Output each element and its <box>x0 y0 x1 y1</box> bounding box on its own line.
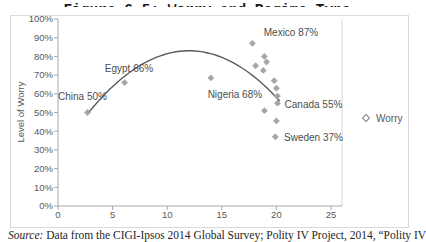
data-point-diamond <box>121 79 128 86</box>
data-point-diamond <box>207 75 214 82</box>
data-point-label: Mexico 87% <box>264 27 319 38</box>
y-tick-label: 70% <box>34 69 54 80</box>
y-tick-label: 10% <box>34 182 54 193</box>
x-tick-label: 25 <box>326 209 337 220</box>
data-point-diamond <box>263 59 270 66</box>
data-point-label: Canada 55% <box>285 99 343 110</box>
figure-title-clipped: Figure 6.5: Worry and Regime Type <box>0 0 414 7</box>
x-tick-label: 0 <box>55 209 60 220</box>
data-point-label: Egypt 66% <box>105 63 153 74</box>
figure-title-text: Figure 6.5: Worry and Regime Type <box>63 2 350 7</box>
y-tick-label: 20% <box>34 163 54 174</box>
data-point-diamond <box>273 85 280 92</box>
y-tick-label: 60% <box>34 88 54 99</box>
y-axis-title: Level of Worry <box>15 81 26 142</box>
y-tick-label: 40% <box>34 126 54 137</box>
worry-scatter-chart: 0%10%20%30%40%50%60%70%80%90%100%0510152… <box>10 15 409 228</box>
y-tick-label: 30% <box>34 144 54 155</box>
x-tick-label: 10 <box>162 209 173 220</box>
y-tick-label: 100% <box>29 16 54 24</box>
y-tick-label: 90% <box>34 32 54 43</box>
source-citation: Source: Data from the CIGI-Ipsos 2014 Gl… <box>8 229 412 242</box>
data-point-diamond <box>274 93 281 100</box>
data-point-diamond <box>249 40 256 47</box>
source-prefix: Source: <box>8 229 43 241</box>
legend-series-label: Worry <box>376 113 402 124</box>
x-tick-label: 20 <box>271 209 282 220</box>
data-point-label: Nigeria 68% <box>208 89 263 100</box>
data-point-diamond <box>272 133 279 140</box>
trend-curve <box>88 51 280 114</box>
data-point-diamond <box>273 118 280 125</box>
data-point-diamond <box>261 107 268 114</box>
y-tick-label: 50% <box>34 107 54 118</box>
data-point-label: China 50% <box>58 91 107 102</box>
x-tick-label: 15 <box>217 209 228 220</box>
y-tick-label: 0% <box>39 200 53 211</box>
data-point-diamond <box>260 67 267 74</box>
data-point-label: Sweden 37% <box>284 132 343 143</box>
data-point-diamond <box>252 62 259 69</box>
diamond-legend-marker-icon <box>362 114 370 122</box>
y-tick-label: 80% <box>34 51 54 62</box>
data-point-diamond <box>271 77 278 84</box>
chart-legend: Worry <box>363 111 402 125</box>
data-point-diamond <box>261 53 268 60</box>
source-text: Data from the CIGI-Ipsos 2014 Global Sur… <box>43 229 426 241</box>
chart-canvas: 0%10%20%30%40%50%60%70%80%90%100%0510152… <box>11 16 408 227</box>
x-tick-label: 5 <box>110 209 115 220</box>
